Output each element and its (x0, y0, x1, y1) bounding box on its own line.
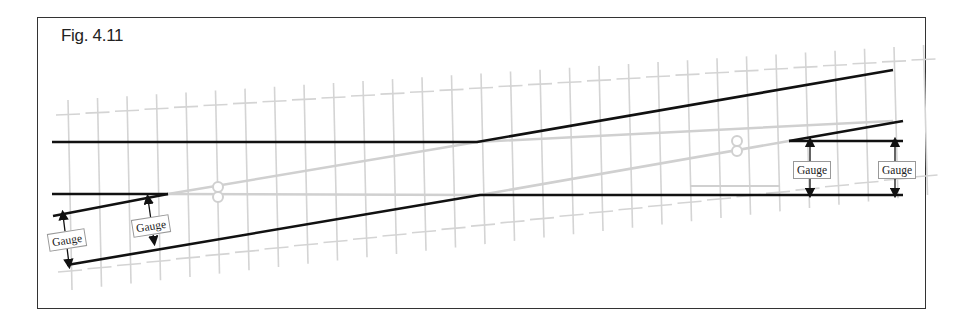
gauge-label-right-2: Gauge (878, 161, 916, 179)
turnout-diagram: Fig. 4.11 Gauge Gauge Gauge Gauge (0, 0, 964, 331)
gauge-label-right-1: Gauge (793, 161, 831, 179)
rails (52, 70, 903, 265)
